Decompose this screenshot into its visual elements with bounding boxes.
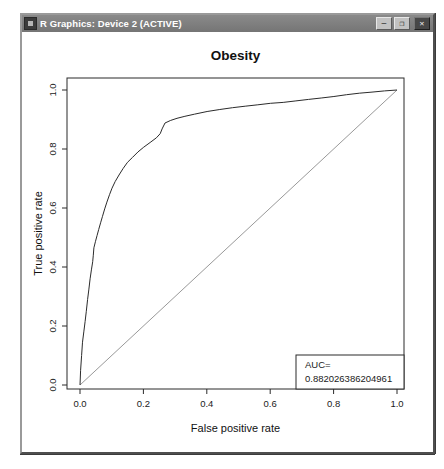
close-button-icon[interactable]: ✕ (414, 17, 430, 30)
r-graphics-app-icon (24, 17, 37, 30)
r-graphics-window: R Graphics: Device 2 (ACTIVE) – ❐ ✕ 0.00… (20, 13, 435, 454)
x-tick-label: 0.8 (327, 398, 340, 409)
x-tick-label: 0.2 (137, 398, 150, 409)
x-tick-label: 0.0 (73, 398, 86, 409)
x-tick-label: 1.0 (390, 398, 403, 409)
desktop: { "window": { "title": "R Graphics: Devi… (0, 0, 444, 469)
roc-chart: 0.00.20.40.60.81.00.00.20.40.60.81.0Obes… (22, 32, 429, 448)
window-title: R Graphics: Device 2 (ACTIVE) (40, 15, 373, 32)
auc-legend-value: 0.882026386204961 (305, 373, 392, 384)
chart-title: Obesity (211, 48, 261, 63)
auc-legend-label: AUC= (305, 359, 331, 370)
plot-box (67, 78, 404, 389)
titlebar[interactable]: R Graphics: Device 2 (ACTIVE) – ❐ ✕ (22, 15, 433, 32)
x-axis-label: False positive rate (191, 422, 280, 434)
y-tick-label: 0.4 (47, 260, 58, 273)
y-tick-label: 0.6 (47, 201, 58, 214)
x-tick-label: 0.4 (200, 398, 213, 409)
y-tick-label: 0.2 (47, 319, 58, 332)
y-tick-label: 1.0 (47, 83, 58, 96)
y-axis-label: True positive rate (32, 191, 44, 276)
window-controls: – ❐ ✕ (376, 17, 430, 30)
plot-canvas: 0.00.20.40.60.81.00.00.20.40.60.81.0Obes… (22, 32, 433, 452)
x-tick-label: 0.6 (264, 398, 277, 409)
y-tick-label: 0.0 (47, 378, 58, 391)
diagonal-reference-line (80, 90, 397, 385)
y-tick-label: 0.8 (47, 142, 58, 155)
minimize-button-icon[interactable]: – (376, 17, 392, 30)
maximize-button-icon[interactable]: ❐ (394, 17, 410, 30)
